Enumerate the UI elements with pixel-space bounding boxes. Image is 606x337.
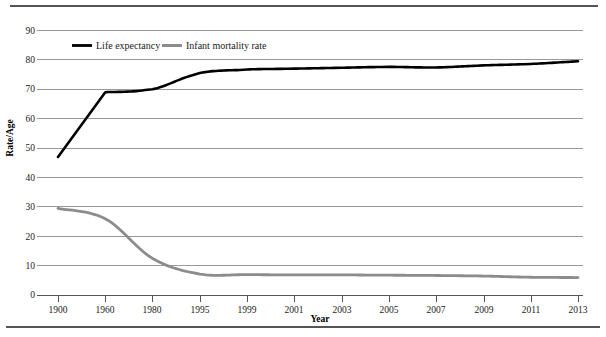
- y-tick-label: 40: [26, 173, 36, 183]
- legend: Life expectancy Infant mortality rate: [72, 40, 267, 51]
- y-tick-label: 80: [26, 55, 36, 65]
- x-tick-label: 2011: [522, 305, 541, 315]
- x-tick-label: 2009: [475, 305, 494, 315]
- x-tick-label: 1900: [49, 305, 68, 315]
- y-tick-label: 90: [26, 26, 36, 36]
- y-tick-label: 30: [26, 202, 36, 212]
- y-axis-title: Rate/Age: [5, 119, 15, 156]
- y-tick-label: 10: [26, 261, 36, 271]
- y-tick-label: 20: [26, 232, 36, 242]
- chart-page: 90 80 70 60 50 40 30 20 10 0 Rate/Age: [0, 0, 606, 337]
- y-tick-label: 0: [30, 290, 35, 300]
- x-tick-label: 1960: [96, 305, 115, 315]
- legend-label-life-expectancy: Life expectancy: [96, 40, 160, 51]
- x-tick-label: 1999: [238, 305, 257, 315]
- y-tick-label: 50: [26, 143, 36, 153]
- y-tick-label: 70: [26, 84, 36, 94]
- x-tick-label: 2003: [333, 305, 352, 315]
- y-tick-label: 60: [26, 114, 36, 124]
- series-life-expectancy: [58, 61, 578, 157]
- x-tick-label: 2013: [569, 305, 588, 315]
- x-axis-title: Year: [311, 314, 331, 324]
- x-tick-label: 2001: [285, 305, 304, 315]
- y-axis-tick-labels: 90 80 70 60 50 40 30 20 10 0: [26, 26, 36, 301]
- x-tick-label: 2005: [380, 305, 399, 315]
- x-tick-label: 1980: [143, 305, 162, 315]
- legend-label-infant-mortality: Infant mortality rate: [186, 40, 267, 51]
- series-infant-mortality: [58, 208, 578, 277]
- x-axis: [37, 295, 583, 302]
- line-chart: 90 80 70 60 50 40 30 20 10 0 Rate/Age: [0, 0, 606, 337]
- x-tick-label: 2007: [427, 305, 446, 315]
- x-tick-label: 1995: [191, 305, 210, 315]
